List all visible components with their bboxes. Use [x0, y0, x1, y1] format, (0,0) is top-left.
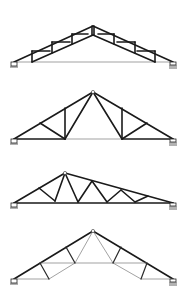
- roller-support-icon: [169, 62, 177, 68]
- truss-2: [10, 90, 177, 145]
- pin-support-icon: [10, 139, 18, 144]
- apex-node-icon: [91, 229, 94, 232]
- apex-node-icon: [91, 90, 94, 93]
- truss-diagram-canvas: [0, 0, 184, 302]
- truss-3: [10, 171, 177, 209]
- apex-node-icon: [63, 171, 66, 174]
- roller-support-icon: [169, 279, 177, 285]
- roller-support-icon: [169, 203, 177, 209]
- truss-1: [10, 26, 177, 68]
- pin-support-icon: [10, 203, 18, 208]
- truss-4: [10, 229, 177, 285]
- pin-support-icon: [10, 62, 18, 67]
- pin-support-icon: [10, 279, 18, 284]
- roller-support-icon: [169, 139, 177, 145]
